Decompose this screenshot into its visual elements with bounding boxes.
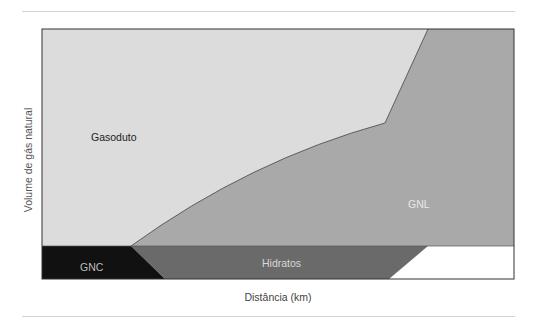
x-axis-label: Distância (km) — [0, 291, 536, 303]
label-gasoduto: Gasoduto — [91, 131, 137, 143]
label-gnc: GNC — [80, 261, 103, 273]
y-axis-label: Volume de gás natural — [22, 108, 34, 213]
chart-area — [0, 0, 536, 326]
label-hidratos: Hidratos — [262, 257, 301, 269]
label-gnl: GNL — [408, 198, 430, 210]
